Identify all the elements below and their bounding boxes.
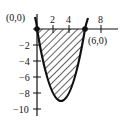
x-tick-label-4: 4 <box>66 14 71 25</box>
label-root: (6,0) <box>88 35 107 47</box>
x-tick-label-2: 2 <box>50 14 55 25</box>
point-origin <box>34 26 40 32</box>
y-tick-label-m10: −10 <box>13 104 29 115</box>
y-tick-label-m2: −2 <box>19 40 30 51</box>
y-tick-label-m8: −8 <box>19 88 30 99</box>
x-tick-label-8: 8 <box>98 14 103 25</box>
parabola-chart: (0,0) (6,0) 2 4 8 −2 −4 −6 −8 −10 <box>0 0 121 124</box>
y-tick-label-m4: −4 <box>19 56 30 67</box>
y-tick-label-m6: −6 <box>19 72 30 83</box>
point-root <box>82 26 88 32</box>
label-origin: (0,0) <box>6 12 25 24</box>
